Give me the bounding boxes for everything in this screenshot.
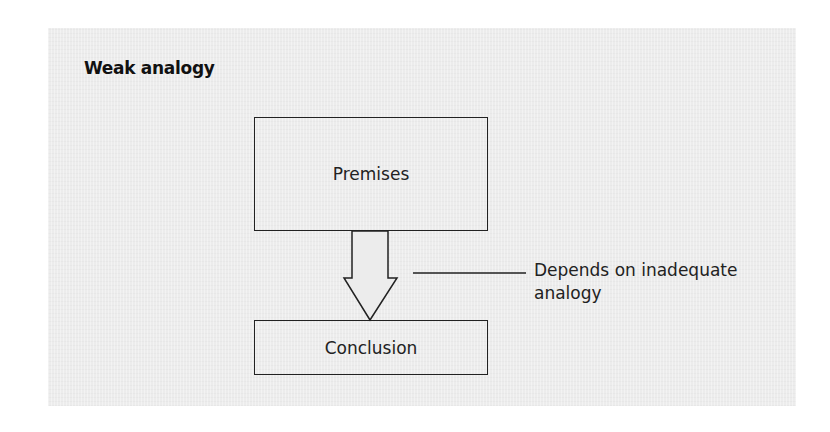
conclusion-label: Conclusion bbox=[325, 338, 418, 358]
annotation-line-2: analogy bbox=[534, 282, 774, 305]
annotation-line-1: Depends on inadequate bbox=[534, 259, 774, 282]
conclusion-box: Conclusion bbox=[254, 320, 488, 375]
hollow-down-arrow-icon bbox=[344, 231, 397, 320]
annotation-text: Depends on inadequate analogy bbox=[534, 259, 774, 305]
